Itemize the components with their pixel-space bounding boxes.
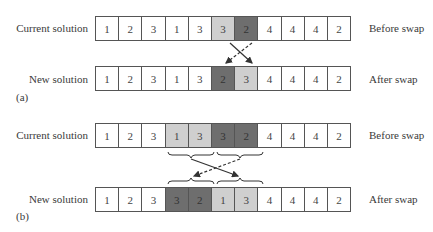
brace-top-left-b	[168, 152, 214, 158]
swap-arrow-dashed-b	[194, 159, 240, 176]
swap-arrow-solid-b	[191, 159, 238, 176]
swap-arrow-solid-a	[230, 43, 252, 63]
brace-top-right-b	[217, 152, 263, 158]
brace-bottom-right-b	[217, 178, 263, 184]
brace-bottom-left-b	[168, 178, 214, 184]
swap-arrows	[0, 0, 433, 232]
